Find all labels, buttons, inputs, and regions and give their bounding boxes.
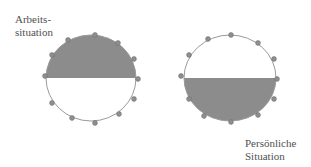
diagram-canvas bbox=[0, 0, 311, 167]
dot-marker bbox=[256, 113, 261, 118]
dot-marker bbox=[116, 41, 121, 46]
dot-marker bbox=[136, 77, 141, 82]
dot-marker bbox=[93, 121, 98, 126]
filled-half-top bbox=[46, 35, 136, 78]
dot-marker bbox=[50, 101, 55, 106]
dot-marker bbox=[275, 77, 280, 82]
dot-marker bbox=[50, 53, 55, 58]
dot-marker bbox=[66, 38, 71, 43]
dot-marker bbox=[132, 57, 137, 62]
filled-half-bottom bbox=[184, 78, 276, 121]
dot-marker bbox=[272, 97, 277, 102]
dot-marker bbox=[187, 53, 192, 58]
dot-marker bbox=[256, 41, 261, 46]
dot-marker bbox=[70, 116, 75, 121]
dot-marker bbox=[43, 74, 48, 79]
dot-marker bbox=[117, 112, 122, 117]
dot-marker bbox=[202, 114, 207, 119]
dot-marker bbox=[229, 120, 234, 125]
dot-marker bbox=[229, 33, 234, 38]
dot-marker bbox=[132, 97, 137, 102]
dot-marker bbox=[206, 37, 211, 42]
dot-marker bbox=[93, 33, 98, 38]
circle-arbeitssituation bbox=[43, 33, 141, 126]
dot-marker bbox=[187, 97, 192, 102]
dot-marker bbox=[179, 74, 184, 79]
circle-persoenliche-situation bbox=[179, 33, 280, 125]
dot-marker bbox=[272, 57, 277, 62]
